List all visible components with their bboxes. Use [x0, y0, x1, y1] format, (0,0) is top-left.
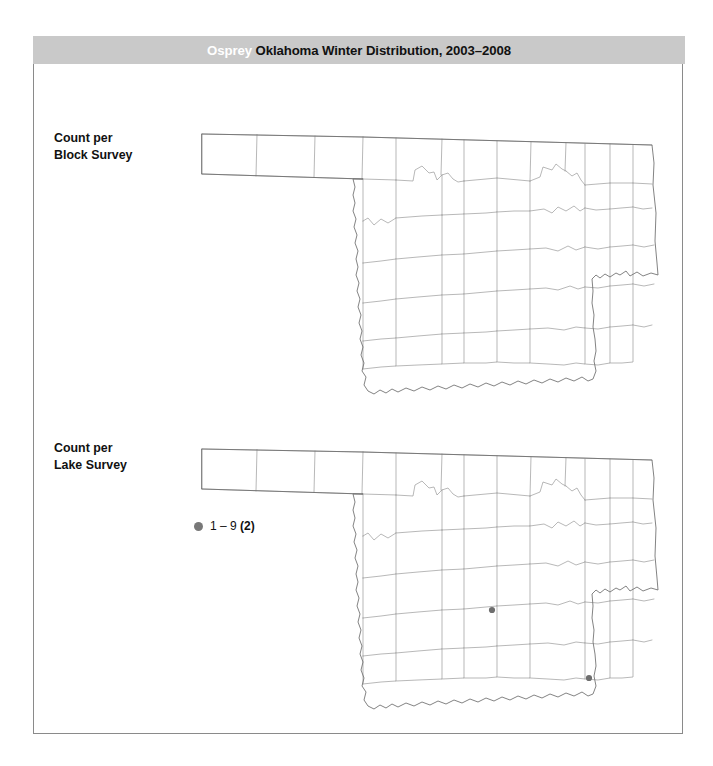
figure-title-bar: Osprey Oklahoma Winter Distribution, 200… [33, 36, 685, 64]
distribution-figure: Osprey Oklahoma Winter Distribution, 200… [33, 36, 685, 736]
title-description: Oklahoma Winter Distribution, 2003–2008 [256, 43, 511, 58]
page-title: Osprey Oklahoma Winter Distribution, 200… [207, 43, 511, 58]
panel-label-block-survey: Count per Block Survey [54, 130, 133, 164]
map-data-point [489, 607, 495, 613]
figure-content-panel: Count per Block Survey Count per Lake Su… [33, 64, 683, 734]
map-data-point [586, 675, 592, 681]
oklahoma-county-map-block [196, 123, 666, 403]
title-species-name: Osprey [207, 43, 252, 58]
map-lake-survey [196, 438, 666, 718]
map-block-survey [196, 123, 666, 403]
oklahoma-county-map-lake [196, 438, 666, 718]
panel-label-lake-survey: Count per Lake Survey [54, 440, 127, 474]
data-point-group [489, 607, 592, 681]
